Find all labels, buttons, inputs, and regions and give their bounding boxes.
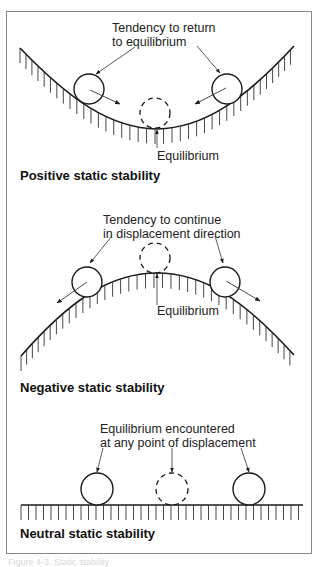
positive-annotation: Tendency to return to equilibrium [112, 21, 216, 49]
ball-right-icon [233, 473, 265, 505]
ground-hatching [21, 505, 299, 520]
annotation-line: Equilibrium encountered [100, 422, 256, 436]
annotation-line: at any point of displacement [100, 436, 256, 450]
ball-left-icon [81, 473, 113, 505]
equilibrium-label: Equilibrium [157, 304, 219, 318]
equilibrium-label: Equilibrium [157, 149, 219, 163]
positive-stability-panel [20, 46, 294, 148]
pointer-arrow-icon [241, 448, 249, 472]
stability-diagram [0, 0, 321, 567]
neutral-stability-panel [21, 448, 303, 520]
equilibrium-ball-dashed-icon [140, 98, 170, 128]
neutral-annotation: Equilibrium encountered at any point of … [100, 422, 256, 450]
ball-right-icon [210, 267, 240, 297]
annotation-line: Tendency to continue [103, 213, 241, 227]
annotation-line: to equilibrium [112, 35, 216, 49]
annotation-line: Tendency to return [112, 21, 216, 35]
ball-right-icon [212, 74, 242, 104]
ball-left-icon [74, 74, 104, 104]
valley-surface [20, 46, 294, 129]
figure-caption: Figure 4-3. Static stability [8, 557, 109, 567]
positive-stability-title: Positive static stability [20, 168, 160, 183]
annotation-line: in displacement direction [103, 227, 241, 241]
ground-hatching [21, 273, 290, 371]
ball-middle-dashed-icon [156, 473, 188, 505]
equilibrium-ball-dashed-icon [140, 243, 170, 273]
pointer-arrow-icon [97, 448, 103, 472]
ground-hatching [20, 48, 290, 144]
pointer-arrow-icon [197, 46, 220, 73]
negative-annotation: Tendency to continue in displacement dir… [103, 213, 241, 241]
neutral-stability-title: Neutral static stability [20, 526, 155, 541]
negative-stability-title: Negative static stability [20, 380, 165, 395]
pointer-arrow-icon [96, 47, 135, 74]
